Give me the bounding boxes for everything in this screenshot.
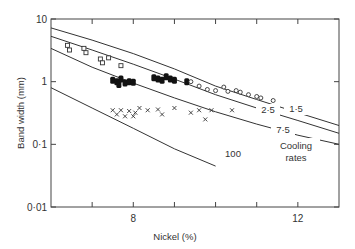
curve-label: 1·5	[289, 103, 303, 114]
annotation-rates: rates	[285, 152, 306, 163]
data-point-cross	[146, 108, 150, 112]
data-point-cross	[203, 117, 207, 121]
data-point-cross	[123, 114, 127, 118]
data-point-circle	[246, 93, 250, 97]
y-tick-label: 10	[36, 14, 48, 25]
cooling-curve-2-5	[51, 36, 339, 133]
data-point-square	[119, 64, 123, 68]
curve-label: 2·5	[261, 104, 275, 115]
data-point-circle	[205, 87, 209, 91]
data-point-circle	[271, 99, 275, 103]
chart-canvas: 1010·10·01812Nickel (%)Band width (mm)1·…	[0, 0, 355, 249]
data-point-circle	[189, 80, 193, 84]
x-tick-label: 8	[131, 213, 137, 224]
data-point-circle	[259, 96, 263, 100]
data-point-filled	[131, 79, 136, 86]
data-point-square	[100, 61, 104, 65]
data-point-square	[65, 43, 69, 47]
y-tick-label: 0·01	[27, 202, 47, 213]
x-axis-label: Nickel (%)	[153, 231, 196, 242]
data-point-cross	[172, 106, 176, 110]
data-point-circle	[214, 89, 218, 93]
curve-label: 7·5	[276, 124, 290, 135]
data-point-filled	[116, 81, 121, 88]
data-point-cross	[137, 106, 141, 110]
y-tick-label: 1	[41, 76, 47, 87]
data-point-cross	[115, 112, 119, 116]
data-point-square	[68, 48, 72, 52]
data-point-filled	[172, 77, 177, 84]
data-point-circle	[197, 84, 201, 88]
data-point-square	[84, 51, 88, 55]
data-point-cross	[133, 111, 137, 115]
data-point-circle	[255, 94, 259, 98]
data-point-circle	[238, 90, 242, 94]
y-tick-label: 0·1	[33, 139, 48, 150]
data-point-circle	[222, 85, 226, 89]
data-point-square	[82, 46, 86, 50]
cooling-curve-100	[51, 88, 216, 166]
annotation-cooling: Cooling	[280, 140, 312, 151]
data-point-cross	[156, 107, 160, 111]
data-point-cross	[111, 108, 115, 112]
data-point-cross	[131, 114, 135, 118]
data-point-circle	[226, 89, 230, 93]
data-point-square	[107, 56, 111, 60]
data-point-cross	[197, 108, 201, 112]
data-point-cross	[230, 108, 234, 112]
y-axis-label: Band width (mm)	[15, 77, 26, 149]
data-point-cross	[127, 109, 131, 113]
curve-label: 100	[225, 148, 241, 159]
data-point-circle	[234, 89, 238, 93]
cooling-curve-7-5	[51, 48, 339, 144]
x-tick-label: 12	[292, 213, 304, 224]
data-point-cross	[119, 108, 123, 112]
data-point-cross	[160, 112, 164, 116]
data-point-cross	[189, 111, 193, 115]
